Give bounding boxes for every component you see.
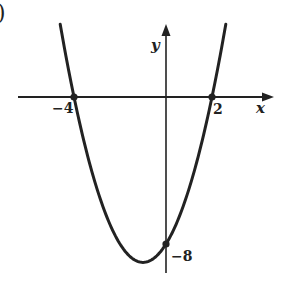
x-axis-label: x (255, 99, 266, 117)
y-axis-label: y (150, 36, 161, 54)
parabola-curve (60, 24, 226, 262)
tick-label-minus-8: −8 (171, 248, 192, 264)
tick-label-minus-4: −4 (52, 100, 74, 116)
part-label: ) (0, 0, 6, 25)
root-point-right (208, 93, 215, 100)
y-intercept-point (162, 240, 169, 247)
tick-label-2: 2 (213, 101, 223, 117)
parabola-figure: ) y x −4 2 −8 (0, 0, 283, 285)
y-axis-arrow-icon (162, 24, 171, 36)
